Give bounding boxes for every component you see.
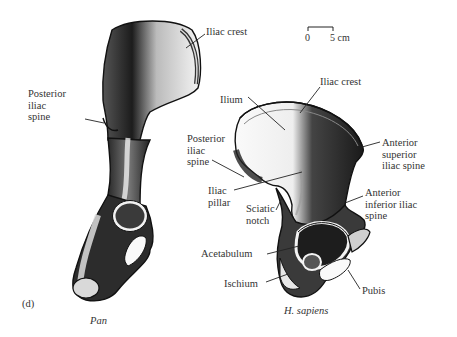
human-label-sciatic-notch: Sciatic notch: [246, 203, 275, 226]
leader-human-aiis: [345, 196, 363, 203]
leader-human-pubis: [348, 270, 360, 289]
human-label-acetabulum: Acetabulum: [201, 248, 252, 260]
pan-ilium-blade: [103, 21, 201, 140]
leader-human-asis: [362, 142, 380, 147]
pan-pelvis: [73, 21, 201, 301]
human-label-ilium: Ilium: [220, 94, 243, 106]
caption-pan: Pan: [90, 315, 107, 326]
pelvis-comparison-figure: 0 5 cm Iliac crest Posterior iliac spine…: [0, 0, 457, 337]
human-label-iliac-crest: Iliac crest: [320, 76, 361, 88]
leader-pan-posterior-iliac-spine: [85, 119, 104, 123]
human-label-iliac-pillar: Iliac pillar: [208, 185, 230, 208]
pan-label-iliac-crest: Iliac crest: [206, 26, 247, 38]
scale-bar-start: 0: [305, 32, 310, 43]
pan-acetabulum: [114, 202, 146, 230]
human-label-ischium: Ischium: [224, 278, 258, 290]
scale-bar-end: 5 cm: [330, 32, 350, 43]
human-pelvis: [235, 102, 370, 297]
caption-h-sapiens: H. sapiens: [284, 305, 328, 316]
human-label-anterior-superior-iliac-spine: Anterior superior iliac spine: [382, 137, 425, 172]
human-label-posterior-iliac-spine: Posterior iliac spine: [187, 133, 225, 168]
pan-label-posterior-iliac-spine: Posterior iliac spine: [28, 88, 66, 123]
human-label-anterior-inferior-iliac-spine: Anterior inferior iliac spine: [365, 187, 417, 222]
human-label-pubis: Pubis: [362, 285, 385, 297]
panel-label: (d): [22, 298, 34, 310]
scale-bar: [308, 27, 333, 31]
